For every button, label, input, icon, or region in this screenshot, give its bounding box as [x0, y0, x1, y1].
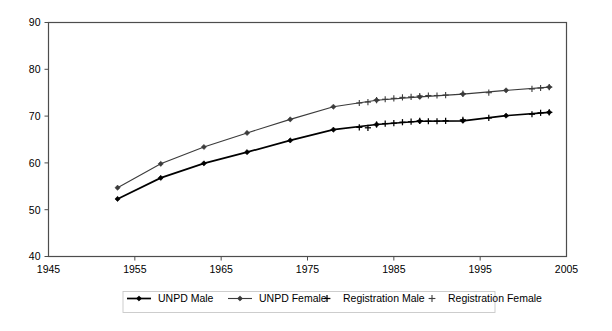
legend-label: Registration Female: [448, 292, 542, 304]
y-tick-label-40: 40: [29, 250, 41, 262]
x-tick-label-1955: 1955: [123, 263, 147, 275]
y-tick-label-60: 60: [29, 157, 41, 169]
plot-area-frame: [49, 23, 567, 257]
legend-label: UNPD Female: [259, 292, 327, 304]
x-tick-label-1945: 1945: [37, 263, 61, 275]
x-tick-label-1975: 1975: [296, 263, 320, 275]
x-tick-label-1995: 1995: [468, 263, 492, 275]
x-tick-label-1985: 1985: [382, 263, 406, 275]
legend-label: Registration Male: [343, 292, 425, 304]
y-tick-label-50: 50: [29, 204, 41, 216]
x-tick-label-2005: 2005: [555, 263, 579, 275]
y-tick-label-80: 80: [29, 63, 41, 75]
chart-legend: UNPD MaleUNPD FemaleRegistration MaleReg…: [123, 292, 542, 313]
y-tick-label-90: 90: [29, 16, 41, 28]
chart-container: 405060708090 194519551965197519851995200…: [0, 0, 612, 331]
y-tick-label-70: 70: [29, 110, 41, 122]
x-tick-label-1965: 1965: [209, 263, 233, 275]
life-expectancy-line-chart: 405060708090 194519551965197519851995200…: [0, 0, 612, 331]
legend-label: UNPD Male: [158, 292, 214, 304]
